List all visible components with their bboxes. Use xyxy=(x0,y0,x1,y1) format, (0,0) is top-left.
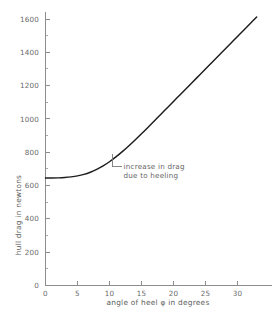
x-tick-label-0: 0 xyxy=(43,289,48,298)
x-tick-label-30: 30 xyxy=(233,289,243,298)
annotation-line-1: increase in drag xyxy=(124,162,185,171)
y-tick-label-1400: 1400 xyxy=(20,48,39,57)
y-tick-label-600: 600 xyxy=(25,181,40,190)
y-tick-label-400: 400 xyxy=(25,214,40,223)
x-tick-label-25: 25 xyxy=(201,289,211,298)
y-tick-label-1600: 1600 xyxy=(20,15,39,24)
y-tick-label-800: 800 xyxy=(25,148,40,157)
y-tick-label-0: 0 xyxy=(34,281,39,290)
x-tick-label-20: 20 xyxy=(169,289,179,298)
x-tick-label-15: 15 xyxy=(137,289,147,298)
x-tick-label-5: 5 xyxy=(75,289,80,298)
chart-figure: 02004006008001000120014001600 hull drag … xyxy=(0,0,280,317)
y-tick-label-1200: 1200 xyxy=(20,81,39,90)
x-tick-label-10: 10 xyxy=(105,289,115,298)
y-tick-label-1000: 1000 xyxy=(20,115,39,124)
line-chart: 02004006008001000120014001600 hull drag … xyxy=(0,0,280,317)
annotation-line-2: due to heeling xyxy=(124,171,179,180)
chart-background xyxy=(0,0,280,317)
y-tick-label-200: 200 xyxy=(25,248,40,257)
y-axis-title: hull drag in newtons xyxy=(14,175,23,255)
x-axis-title: angle of heel φ in degrees xyxy=(106,298,209,307)
